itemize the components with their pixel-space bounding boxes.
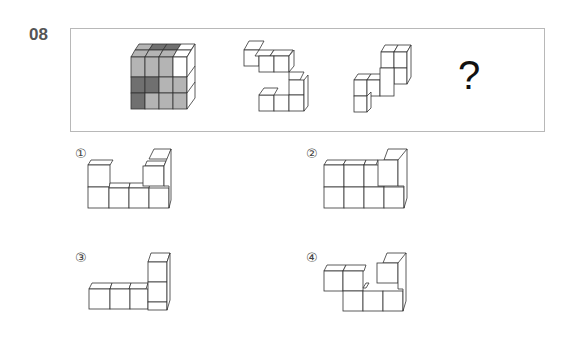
- option-3-figure[interactable]: [89, 253, 170, 310]
- figures-canvas: [0, 0, 573, 345]
- figure-2: [244, 41, 308, 111]
- figure-3: [354, 45, 411, 112]
- figure-1: [131, 44, 195, 109]
- option-4-figure[interactable]: [324, 253, 406, 311]
- option-2-figure[interactable]: [324, 149, 407, 208]
- option-1-figure[interactable]: [88, 149, 171, 208]
